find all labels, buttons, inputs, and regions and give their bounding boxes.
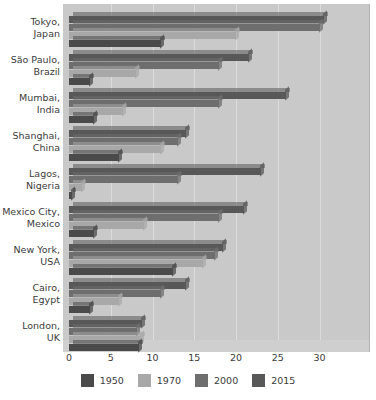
legend-label: 2000 [214, 375, 238, 386]
bar-group [63, 8, 369, 46]
category-label: London,UK [22, 320, 60, 343]
category-label-line: UK [22, 332, 60, 344]
category-label-line: Mexico [2, 218, 60, 230]
bar-group [63, 46, 369, 84]
category-label-line: Shanghai, [13, 130, 60, 142]
bar-group [63, 236, 369, 274]
bar-group [63, 84, 369, 122]
bar-rows [63, 4, 369, 352]
x-tick-label: 5 [108, 352, 114, 363]
category-label-line: Tokyo, [30, 16, 60, 28]
category-label: Cairo,Egypt [32, 282, 60, 305]
category-label-line: Egypt [32, 294, 60, 306]
population-bar-chart: Tokyo,JapanSão Paulo,BrazilMumbai,IndiaS… [0, 0, 376, 400]
legend-label: 1970 [157, 375, 181, 386]
x-tick-label: 25 [272, 352, 284, 363]
category-label-line: Nigeria [26, 180, 60, 192]
x-tick-label: 20 [230, 352, 242, 363]
plot-area [63, 4, 370, 352]
legend-item-1970[interactable]: 1970 [138, 374, 181, 387]
category-label-line: USA [13, 256, 60, 268]
chart-legend: 1950197020002015 [0, 374, 376, 387]
legend-item-2015[interactable]: 2015 [252, 374, 295, 387]
legend-swatch-icon [138, 374, 151, 387]
category-label-line: Cairo, [32, 282, 60, 294]
bar-front-face [69, 344, 139, 351]
legend-item-2000[interactable]: 2000 [195, 374, 238, 387]
bar-group [63, 274, 369, 312]
legend-label: 2015 [271, 375, 295, 386]
x-tick-label: 10 [146, 352, 158, 363]
legend-label: 1950 [100, 375, 124, 386]
category-label-line: London, [22, 320, 60, 332]
category-label-line: São Paulo, [11, 54, 60, 66]
category-label: Mumbai,India [19, 92, 60, 115]
category-label: Shanghai,China [13, 130, 60, 153]
category-label-line: Japan [30, 28, 60, 40]
legend-item-1950[interactable]: 1950 [81, 374, 124, 387]
bar-group [63, 198, 369, 236]
category-axis-labels: Tokyo,JapanSão Paulo,BrazilMumbai,IndiaS… [0, 4, 60, 352]
legend-swatch-icon [81, 374, 94, 387]
category-label-line: India [19, 104, 60, 116]
legend-swatch-icon [195, 374, 208, 387]
value-axis-labels: 051015202530 [0, 352, 376, 368]
category-label-line: Lagos, [26, 168, 60, 180]
category-label: Lagos,Nigeria [26, 168, 60, 191]
bar-group [63, 122, 369, 160]
category-label-line: New York, [13, 244, 60, 256]
x-tick-label: 15 [188, 352, 200, 363]
category-label: Tokyo,Japan [30, 16, 60, 39]
bar-1950 [69, 344, 139, 351]
category-label-line: Mexico City, [2, 206, 60, 218]
category-label: São Paulo,Brazil [11, 54, 60, 77]
category-label: New York,USA [13, 244, 60, 267]
legend-swatch-icon [252, 374, 265, 387]
category-label-line: Mumbai, [19, 92, 60, 104]
x-tick-label: 0 [66, 352, 72, 363]
bar-group [63, 312, 369, 350]
category-label-line: Brazil [11, 66, 60, 78]
bar-group [63, 160, 369, 198]
x-tick-label: 30 [313, 352, 325, 363]
category-label: Mexico City,Mexico [2, 206, 60, 229]
category-label-line: China [13, 142, 60, 154]
